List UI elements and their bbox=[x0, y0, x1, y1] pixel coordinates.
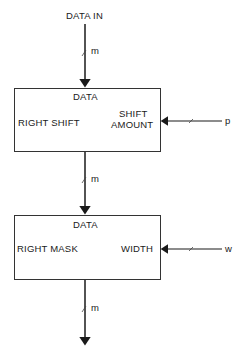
shift-amount-label-1: SHIFT bbox=[119, 108, 147, 119]
w-input-label: w bbox=[225, 243, 232, 254]
right-mask-label: RIGHT MASK bbox=[17, 243, 78, 254]
mask-data-port-label: DATA bbox=[73, 219, 98, 230]
bus-width-label: m bbox=[91, 45, 99, 56]
shift-data-port-label: DATA bbox=[73, 91, 98, 102]
wires bbox=[0, 0, 245, 350]
bus-width-label: m bbox=[91, 302, 99, 313]
data-in-label: DATA IN bbox=[66, 10, 103, 21]
p-input-label: p bbox=[225, 115, 230, 126]
bus-width-label: m bbox=[91, 173, 99, 184]
width-label: WIDTH bbox=[121, 243, 153, 254]
right-shift-label: RIGHT SHIFT bbox=[18, 117, 80, 128]
shift-amount-label-2: AMOUNT bbox=[111, 119, 153, 130]
